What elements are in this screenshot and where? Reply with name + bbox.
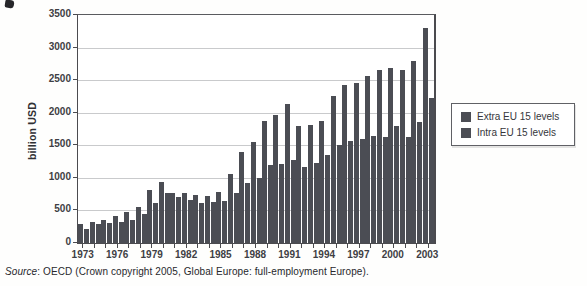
x-tick-mark [174, 244, 175, 248]
bar-extra-1974 [90, 222, 95, 243]
bar-intra-1990 [279, 164, 284, 243]
bar-group-1986 [227, 15, 238, 243]
bar-intra-1993 [314, 163, 319, 243]
x-tick-mark [336, 244, 337, 248]
bar-group-1985 [216, 15, 227, 243]
bar-extra-1982 [182, 193, 187, 243]
x-tick-mark [128, 244, 129, 248]
bar-intra-1975 [107, 223, 112, 243]
bar-group-1991 [285, 15, 296, 243]
bar-intra-1977 [130, 220, 135, 243]
y-tick-label-2000: 2000 [37, 107, 71, 117]
x-tick-mark [359, 244, 360, 248]
x-tick-mark [324, 244, 325, 248]
bar-intra-2001 [406, 137, 411, 243]
bar-group-1976 [112, 15, 123, 243]
bar-extra-1988 [251, 142, 256, 243]
y-tick-label-1500: 1500 [37, 139, 71, 149]
bar-group-1996 [342, 15, 353, 243]
bar-extra-1980 [159, 182, 164, 243]
bar-intra-1981 [176, 197, 181, 243]
bar-intra-2000 [394, 126, 399, 243]
bar-group-1982 [181, 15, 192, 243]
x-tick-cell-2003 [422, 244, 434, 248]
bar-extra-2001 [400, 70, 405, 243]
source-note-text: : OECD (Crown copyright 2005, Global Eur… [37, 266, 369, 277]
x-tick-cell-1973 [77, 244, 89, 248]
bar-extra-1981 [170, 193, 175, 243]
bar-intra-1985 [222, 201, 227, 243]
bar-intra-1988 [257, 178, 262, 243]
bar-extra-1997 [354, 83, 359, 243]
bar-group-1992 [296, 15, 307, 243]
y-tick-label-500: 500 [37, 204, 71, 214]
bar-extra-2002 [411, 61, 416, 243]
bar-intra-1980 [165, 193, 170, 243]
x-tick-cell-1992 [296, 244, 308, 248]
x-tick-mark [347, 244, 348, 248]
bar-extra-1987 [239, 152, 244, 243]
bar-intra-1973 [84, 229, 89, 243]
x-tick-mark [197, 244, 198, 248]
bar-group-1997 [354, 15, 365, 243]
x-tick-label-1976: 1976 [100, 249, 134, 260]
x-tick-label-1979: 1979 [135, 249, 169, 260]
bar-extra-1979 [147, 190, 152, 243]
bar-group-1981 [170, 15, 181, 243]
legend-swatch-icon [461, 128, 471, 138]
bar-extra-1992 [296, 126, 301, 243]
x-tick-label-1982: 1982 [169, 249, 203, 260]
x-tick-cell-1990 [273, 244, 285, 248]
bar-group-1978 [135, 15, 146, 243]
y-axis-title: billion USD [26, 76, 38, 186]
source-note-prefix: Source [5, 266, 37, 277]
y-tick-label-2500: 2500 [37, 74, 71, 84]
bar-extra-1989 [262, 121, 267, 243]
x-tick-mark [163, 244, 164, 248]
x-tick-label-1988: 1988 [238, 249, 272, 260]
x-tick-label-1991: 1991 [272, 249, 306, 260]
x-tick-cell-1994 [319, 244, 331, 248]
x-tick-label-1994: 1994 [307, 249, 341, 260]
bar-group-1980 [158, 15, 169, 243]
bar-group-1988 [250, 15, 261, 243]
x-tick-mark [301, 244, 302, 248]
legend-label: Extra EU 15 levels [477, 111, 559, 122]
bar-group-1993 [308, 15, 319, 243]
bar-extra-1977 [124, 212, 129, 243]
y-tick-label-3500: 3500 [37, 9, 71, 19]
bar-intra-1986 [234, 193, 239, 243]
x-tick-mark [405, 244, 406, 248]
x-tick-cell-1975 [100, 244, 112, 248]
x-tick-cell-1997 [353, 244, 365, 248]
x-tick-mark [105, 244, 106, 248]
x-tick-mark [393, 244, 394, 248]
bar-intra-1978 [142, 214, 147, 243]
bar-group-2000 [388, 15, 399, 243]
bar-intra-1994 [325, 155, 330, 243]
x-tick-cell-1995 [330, 244, 342, 248]
legend-label: Intra EU 15 levels [477, 127, 556, 138]
x-tick-mark [278, 244, 279, 248]
bar-group-1999 [377, 15, 388, 243]
x-tick-mark [255, 244, 256, 248]
legend-swatch-icon [461, 112, 471, 122]
bar-group-2003 [423, 15, 434, 243]
bar-extra-1994 [319, 121, 324, 243]
bar-extra-1975 [101, 220, 106, 243]
x-tick-cell-1987 [238, 244, 250, 248]
y-tick-label-0: 0 [37, 237, 71, 247]
bar-extra-1978 [136, 207, 141, 243]
scan-artifact [4, 0, 14, 9]
x-tick-mark [82, 244, 83, 248]
x-tick-mark [267, 244, 268, 248]
chart-figure: billion USD 0500100015002000250030003500… [0, 0, 587, 286]
bar-extra-2000 [388, 68, 393, 243]
bar-extra-1995 [331, 96, 336, 243]
x-tick-cell-1980 [158, 244, 170, 248]
bars-container [78, 15, 434, 243]
x-tick-mark [370, 244, 371, 248]
bar-extra-1985 [216, 192, 221, 243]
bar-intra-1992 [302, 167, 307, 243]
x-tick-mark [94, 244, 95, 248]
